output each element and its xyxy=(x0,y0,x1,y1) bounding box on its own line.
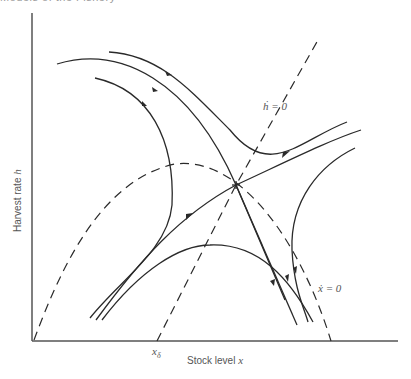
trajectory-lower-arc xyxy=(102,245,313,322)
y-axis-label: Harvest rate h xyxy=(11,169,23,232)
h-dot-zero-label: ḣ = 0 xyxy=(263,100,287,112)
trajectory-left-arc xyxy=(90,78,172,318)
x-delta-tick-label: xδ xyxy=(151,345,161,360)
x-dot-zero-label: ẋ = 0 xyxy=(317,282,342,294)
h-dot-zero-nullcline xyxy=(157,40,318,341)
trajectory-upper-hyperbola xyxy=(109,52,347,154)
arrow-icon xyxy=(186,213,193,220)
arrow-icon xyxy=(282,151,290,158)
x-dot-zero-nullcline xyxy=(34,163,331,341)
trajectory-stable-manifold-lower xyxy=(236,185,297,325)
saddle-point-marker xyxy=(232,181,240,189)
arrow-icon xyxy=(142,101,147,106)
phase-diagram: ḣ = 0 ẋ = 0 xδ Stock level x Harvest rat… xyxy=(0,0,411,379)
trajectory-right-arc xyxy=(292,148,355,322)
x-axis-label: Stock level x xyxy=(187,354,243,366)
arrow-icon xyxy=(152,87,158,92)
trajectory-stable-manifold-upper xyxy=(57,59,285,300)
arrow-icon xyxy=(270,279,275,286)
